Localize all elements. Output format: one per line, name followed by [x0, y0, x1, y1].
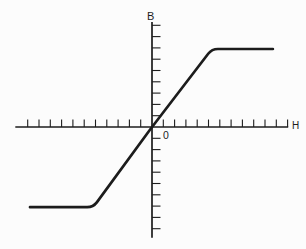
bh-curve-plot — [0, 0, 306, 249]
y-axis-label: B — [147, 11, 154, 22]
origin-label: 0 — [163, 130, 169, 141]
bh-curve-figure: B H 0 — [0, 0, 306, 249]
x-axis-label: H — [292, 121, 299, 131]
